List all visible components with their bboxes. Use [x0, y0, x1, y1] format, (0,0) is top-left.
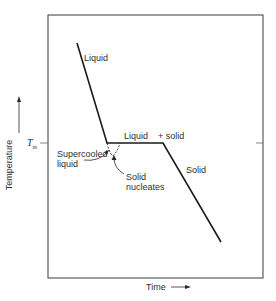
temperature-arrowhead [17, 96, 21, 102]
nucleates-label-1: Solid [126, 172, 146, 182]
cooling-curve-diagram [0, 0, 276, 301]
liquid-label: Liquid [84, 53, 108, 63]
nucleates-label-2: nucleates [126, 182, 165, 192]
tm-label: Tm [27, 137, 37, 150]
supercooling-dip [107, 143, 120, 156]
nucleates-arrow [114, 158, 124, 174]
liquid-solid-label-a: Liquid [124, 131, 148, 141]
y-axis-label: Temperature [4, 140, 14, 191]
supercooled-label-2: liquid [57, 159, 78, 169]
nucleates-arrowhead [112, 155, 117, 160]
solid-label: Solid [186, 165, 206, 175]
liquid-solid-label-b: + solid [158, 131, 184, 141]
supercooled-label-1: Supercooled [57, 149, 108, 159]
time-arrowhead [185, 285, 191, 289]
x-axis-label: Time [146, 282, 166, 292]
cooling-curve-line [77, 43, 221, 242]
